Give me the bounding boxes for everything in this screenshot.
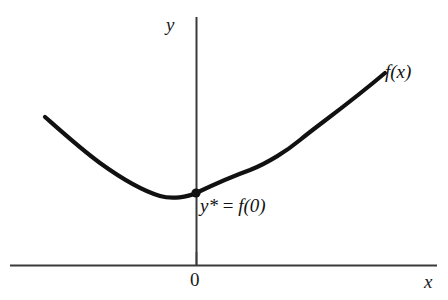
origin-tick-label: 0 — [190, 270, 200, 289]
minimum-point-label-equals: = — [218, 195, 238, 216]
minimum-point-label-symbol: y* — [200, 195, 218, 216]
x-axis-label: x — [424, 272, 432, 291]
minimum-point-label-value: f(0) — [238, 195, 265, 216]
minimum-point-label: y* = f(0) — [200, 196, 266, 215]
y-axis-label: y — [166, 15, 174, 34]
curve-label-fx: f(x) — [385, 62, 411, 81]
figure-container: y x 0 f(x) y* = f(0) — [0, 0, 448, 300]
plot-canvas — [0, 0, 448, 300]
function-curve-fx — [45, 73, 385, 198]
